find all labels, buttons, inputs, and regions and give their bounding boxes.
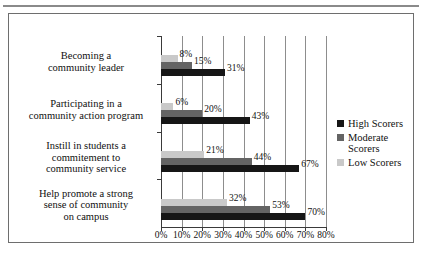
legend-item-high-scorers[interactable]: High Scorers [337,118,421,130]
legend-label-line: Moderate [348,132,388,144]
legend-label-line: Scorers [348,143,388,155]
category-tick [157,132,162,133]
category-label: Instill in students acommitement tocommu… [13,140,159,175]
chart-page: Becoming acommunity leaderParticipating … [0,0,422,253]
category-label-line: community leader [13,62,159,74]
category-label-line: community action program [13,110,159,122]
category-label-line: commitement to [13,152,159,164]
bar-moderate-scorers [161,62,192,69]
legend-label: ModerateScorers [348,132,388,155]
category-label-line: Becoming a [13,50,159,62]
gridline [326,36,327,227]
top-rule-divider [3,5,419,7]
category-label: Participating in acommunity action progr… [13,98,159,121]
legend-label: Low Scorers [348,157,401,169]
bar-low-scorers [161,199,227,206]
bar-low-scorers [161,103,173,110]
legend-label: High Scorers [348,118,403,130]
bar-high-scorers [161,165,299,172]
bar-low-scorers [161,151,204,158]
x-tick-label: 60% [276,230,293,240]
legend-label-line: Low Scorers [348,157,401,169]
legend-swatch-icon [337,134,344,141]
category-label-line: community service [13,163,159,175]
bar-moderate-scorers [161,158,252,165]
bar-value-label: 31% [227,64,244,73]
chart-legend: High ScorersModerateScorersLow Scorers [337,118,421,170]
x-axis-tick-labels: 0%10%20%30%40%50%60%70%80% [129,230,359,244]
bar-value-label: 15% [194,57,211,66]
x-tick-label: 50% [255,230,272,240]
figure-frame: Becoming acommunity leaderParticipating … [8,13,414,243]
legend-item-moderate-scorers[interactable]: ModerateScorers [337,132,421,155]
category-label-line: on campus [13,211,159,223]
bar-value-label: 8% [180,50,193,59]
x-tick-label: 70% [297,230,314,240]
gridline [305,36,306,227]
x-tick-label: 80% [317,230,334,240]
bar-moderate-scorers [161,206,270,213]
category-label: Help promote a strongsense of communityo… [13,188,159,223]
x-tick-label: 10% [173,230,190,240]
x-tick-label: 30% [214,230,231,240]
legend-item-low-scorers[interactable]: Low Scorers [337,157,421,169]
category-tick [157,84,162,85]
category-tick [157,179,162,180]
bar-high-scorers [161,69,225,76]
bar-high-scorers [161,213,305,220]
bar-value-label: 32% [229,194,246,203]
category-label: Becoming acommunity leader [13,50,159,73]
plot-area: 8%15%31%6%20%43%21%44%67%32%53%70% [161,36,326,227]
bar-low-scorers [161,55,178,62]
bar-value-label: 53% [272,201,289,210]
x-tick-label: 40% [235,230,252,240]
bar-value-label: 20% [204,105,221,114]
bar-high-scorers [161,117,250,124]
x-tick-label: 0% [155,230,168,240]
category-label-line: Instill in students a [13,140,159,152]
category-label-line: Help promote a strong [13,188,159,200]
x-tick-label: 20% [194,230,211,240]
legend-label-line: High Scorers [348,118,403,130]
gridline [285,36,286,227]
bar-value-label: 44% [254,153,271,162]
bar-value-label: 67% [301,160,318,169]
bar-value-label: 43% [252,112,269,121]
category-axis-labels: Becoming acommunity leaderParticipating … [9,36,159,227]
bar-value-label: 21% [206,146,223,155]
gridline [264,36,265,227]
bar-value-label: 6% [175,98,188,107]
category-label-line: sense of community [13,199,159,211]
category-tick [157,36,162,37]
category-label-line: Participating in a [13,98,159,110]
legend-swatch-icon [337,159,344,166]
legend-swatch-icon [337,120,344,127]
bar-value-label: 70% [307,208,324,217]
bar-moderate-scorers [161,110,202,117]
